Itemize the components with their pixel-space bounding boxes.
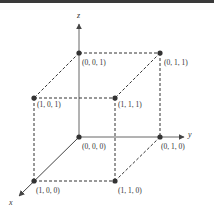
label-011: (0, 1, 1) [164, 58, 188, 67]
y-axis-label: y [187, 130, 192, 139]
axes [19, 24, 184, 196]
z-axis-label: z [76, 11, 81, 20]
vertex-100 [31, 178, 36, 183]
label-010: (0, 1, 0) [161, 142, 185, 151]
x-axis-label: x [8, 198, 13, 207]
label-110: (1, 1, 0) [118, 186, 142, 195]
label-111: (1, 1, 1) [118, 100, 142, 109]
label-101: (1, 0, 1) [37, 100, 61, 109]
vertex-011 [157, 50, 162, 55]
vertex-110 [112, 178, 117, 183]
vertex-010 [157, 134, 162, 139]
cube-edges [34, 53, 160, 181]
edge-010-110 [115, 137, 160, 181]
vertex-000 [76, 134, 81, 139]
edge-011-111 [115, 53, 160, 98]
unit-cube-diagram: (0, 0, 0) (0, 0, 1) (0, 1, 0) (0, 1, 1) … [0, 0, 214, 218]
axis-labels: z y x [8, 11, 192, 207]
label-100: (1, 0, 0) [36, 186, 60, 195]
label-001: (0, 0, 1) [82, 58, 106, 67]
vertices [31, 50, 162, 183]
edge-001-101 [34, 53, 79, 98]
vertex-101 [31, 95, 36, 100]
vertex-labels: (0, 0, 0) (0, 0, 1) (0, 1, 0) (0, 1, 1) … [36, 58, 188, 195]
vertex-111 [112, 95, 117, 100]
label-000: (0, 0, 0) [82, 142, 106, 151]
vertex-001 [76, 50, 81, 55]
